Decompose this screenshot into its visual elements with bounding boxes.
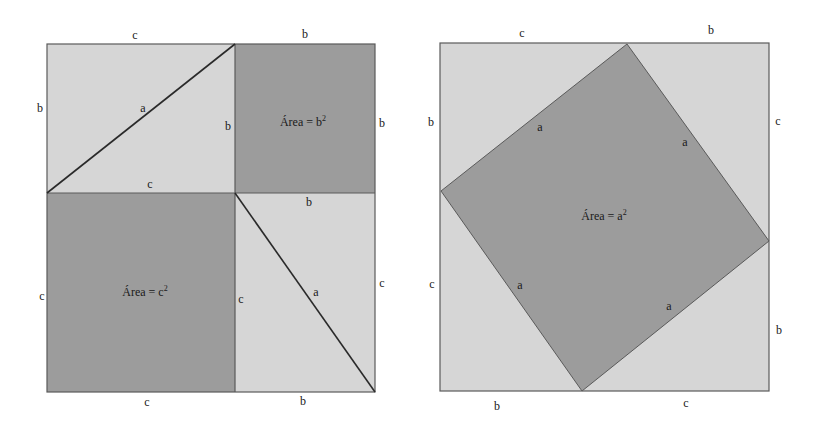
- area-b-squared-label: Área = b2: [280, 114, 326, 129]
- pythagorean-proof-diagram: c b b c b c c b a c b b c a Área = b2 Ár…: [0, 0, 824, 439]
- label-bottom-c: c: [144, 395, 149, 409]
- label-inner-c-left: c: [238, 292, 243, 306]
- area-c-squared-label: Área = c2: [122, 284, 167, 299]
- label-inner-b: b: [225, 119, 231, 133]
- label-hyp-a-bottom: a: [313, 285, 319, 299]
- label-bottom-b: b: [494, 399, 500, 413]
- left-figure: c b b c b c c b a c b b c a Área = b2 Ár…: [37, 27, 385, 409]
- label-left-c: c: [39, 289, 44, 303]
- label-side-a-1: a: [537, 120, 543, 134]
- area-a-squared-label: Área = a2: [581, 208, 626, 223]
- label-bottom-b: b: [300, 394, 306, 408]
- label-right-c: c: [775, 114, 780, 128]
- label-top-b: b: [302, 27, 308, 41]
- label-top-c: c: [519, 26, 524, 40]
- label-hyp-a-top: a: [140, 101, 146, 115]
- label-left-c: c: [429, 277, 434, 291]
- label-inner-c: c: [147, 177, 152, 191]
- label-right-b: b: [379, 116, 385, 130]
- label-side-a-2: a: [682, 135, 688, 149]
- label-side-a-4: a: [666, 299, 672, 313]
- label-right-b: b: [776, 323, 782, 337]
- label-left-b: b: [428, 115, 434, 129]
- label-inner-b-bottom: b: [306, 195, 312, 209]
- label-side-a-3: a: [517, 278, 523, 292]
- label-left-b: b: [37, 101, 43, 115]
- label-bottom-c: c: [683, 396, 688, 410]
- label-right-c: c: [379, 276, 384, 290]
- right-figure: c b b c c b b c a a a a Área = a2: [428, 23, 782, 413]
- label-top-b: b: [708, 23, 714, 37]
- label-top-c: c: [132, 28, 137, 42]
